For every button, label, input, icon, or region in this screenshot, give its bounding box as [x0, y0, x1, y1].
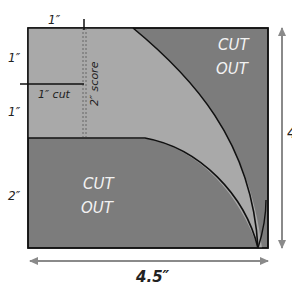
pattern-diagram: 1″ 1″ 1″ 2″ 1″ cut 2″ score CUT OUT CUT …	[0, 0, 292, 289]
label-left-bottom: 2″	[8, 189, 21, 203]
cutout-top-right-line2: OUT	[216, 60, 250, 78]
cutout-bottom-left-line2: OUT	[81, 199, 115, 217]
label-left-top: 1″	[8, 51, 21, 65]
label-height-total: 4	[287, 124, 292, 142]
label-cut: 1″ cut	[38, 88, 71, 101]
label-left-mid: 1″	[8, 105, 21, 119]
label-top-width: 1″	[48, 13, 61, 27]
cutout-bottom-left-line1: CUT	[83, 175, 115, 193]
label-score: 2″ score	[88, 61, 101, 106]
cutout-top-right-line1: CUT	[218, 36, 250, 54]
label-width-total: 4.5″	[135, 268, 170, 286]
